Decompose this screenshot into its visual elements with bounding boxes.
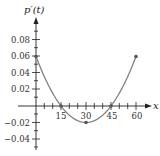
y-axis-title: p′(t): [24, 4, 45, 15]
y-axis: 0.08 0.06 0.04 0.02 −0.02 −0.04 p′(t): [4, 4, 45, 150]
x-tick-label: 15: [56, 111, 67, 121]
data-point: [59, 104, 63, 108]
x-tick-label: 45: [107, 111, 118, 121]
y-tick-label: 0.08: [11, 35, 30, 45]
y-tick-label: 0.04: [11, 68, 30, 78]
y-tick-label: 0.06: [11, 51, 30, 61]
x-axis-arrow-icon: [145, 104, 152, 109]
data-point: [84, 121, 88, 125]
y-axis-arrow-icon: [34, 17, 39, 24]
derivative-chart: 0.08 0.06 0.04 0.02 −0.02 −0.04 p′(t) 15…: [0, 0, 160, 156]
x-tick-label: 30: [81, 111, 92, 121]
data-point: [134, 55, 138, 59]
data-point: [34, 55, 38, 59]
y-tick-label: 0.02: [11, 84, 30, 94]
data-point: [109, 104, 113, 108]
x-tick-label: 60: [132, 111, 143, 121]
x-axis: 15 30 45 60 x: [18, 100, 159, 121]
x-axis-title: x: [153, 100, 159, 111]
y-tick-label: −0.04: [4, 134, 30, 144]
y-tick-label: −0.02: [4, 118, 30, 128]
